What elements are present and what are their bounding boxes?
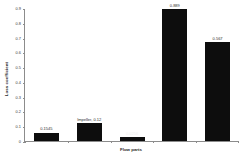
- bar-chart: Loss coefficient 00.10.20.30.40.50.60.70…: [0, 0, 248, 158]
- bar-value-label: 0.1545: [40, 127, 52, 131]
- bar: [205, 42, 230, 141]
- bar: [77, 123, 102, 141]
- x-axis-title: Flow parts: [24, 147, 238, 152]
- y-axis-tick-mark: [23, 9, 25, 10]
- y-axis-tick-label: 0.3: [6, 96, 21, 100]
- x-axis-tick-mark: [25, 141, 26, 143]
- bar-value-label: Impeller, 0.12: [77, 118, 101, 122]
- y-axis-tick-label: 0.7: [6, 37, 21, 41]
- x-axis-tick-mark: [68, 141, 69, 143]
- y-axis-tick-mark: [23, 112, 25, 113]
- x-axis-tick-mark: [153, 141, 154, 143]
- bar: [34, 133, 59, 141]
- y-axis-tick-labels: 00.10.20.30.40.50.60.70.80.9: [6, 0, 21, 158]
- x-axis-tick-mark: [111, 141, 112, 143]
- bar-value-label: 0.567: [213, 37, 223, 41]
- y-axis-tick-label: 0.5: [6, 66, 21, 70]
- bar: [120, 137, 145, 141]
- bar-value-label: 0.0256: [126, 132, 138, 136]
- y-axis-tick-label: 0.2: [6, 110, 21, 114]
- y-axis-tick-label: 0.4: [6, 81, 21, 85]
- bar: [162, 9, 187, 141]
- x-axis-tick-mark: [196, 141, 197, 143]
- y-axis-tick-mark: [23, 68, 25, 69]
- y-axis-tick-label: 0.9: [6, 7, 21, 11]
- y-axis-tick-mark: [23, 83, 25, 84]
- y-axis-tick-label: 0.8: [6, 22, 21, 26]
- plot-area: 0.1545Impeller, 0.120.02560.8890.567: [24, 9, 238, 142]
- bar-value-label: 0.889: [170, 4, 180, 8]
- y-axis-tick-label: 0.6: [6, 51, 21, 55]
- x-axis-tick-mark: [238, 141, 239, 143]
- y-axis-tick-mark: [23, 98, 25, 99]
- y-axis-tick-label: 0: [6, 140, 21, 144]
- y-axis-tick-mark: [23, 39, 25, 40]
- y-axis-tick-mark: [23, 53, 25, 54]
- y-axis-tick-mark: [23, 24, 25, 25]
- y-axis-tick-label: 0.1: [6, 125, 21, 129]
- y-axis-tick-mark: [23, 127, 25, 128]
